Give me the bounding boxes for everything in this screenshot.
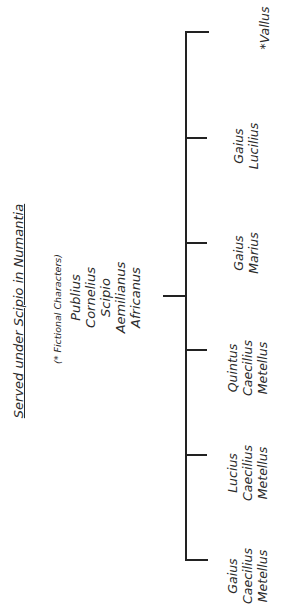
child-6-line-1: Gaius [225, 536, 240, 605]
child-5-line-1: Lucius [225, 433, 240, 513]
branch-2 [185, 137, 207, 139]
child-4-line-3: Metellus [255, 328, 270, 408]
root-connector [163, 295, 187, 297]
child-2-line-2: Lucilius [246, 111, 261, 181]
child-node-gaius-caecilius-metellus: Gaius Caecilius Metellus [225, 536, 271, 605]
child-node-vallus: *Vallus [257, 0, 273, 63]
child-3-line-1: Gaius [231, 218, 246, 288]
child-4-line-1: Quintus [225, 328, 240, 408]
branch-5 [185, 454, 207, 456]
child-5-line-3: Metellus [255, 433, 270, 513]
trunk-line [185, 31, 187, 561]
root-line-5: Africanus [128, 253, 143, 343]
root-node: Publius Cornelius Scipio Aemilianus Afri… [68, 253, 143, 343]
child-2-line-1: Gaius [231, 111, 246, 181]
branch-1 [185, 31, 209, 33]
child-6-line-3: Metellus [255, 536, 270, 605]
diagram-subtitle: (* Fictional Characters) [52, 214, 66, 404]
child-3-line-2: Marius [246, 218, 261, 288]
branch-3 [185, 242, 207, 244]
child-1-line-1: *Vallus [257, 0, 272, 63]
root-line-1: Publius [68, 253, 83, 343]
child-4-line-2: Caecilius [240, 328, 255, 408]
diagram-title: Served under Scipio in Numantia [11, 201, 29, 421]
child-node-gaius-marius: Gaius Marius [231, 218, 263, 288]
child-6-line-2: Caecilius [240, 536, 255, 605]
child-5-line-2: Caecilius [240, 433, 255, 513]
child-node-quintus-caecilius-metellus: Quintus Caecilius Metellus [225, 328, 271, 408]
child-node-gaius-lucilius: Gaius Lucilius [231, 111, 263, 181]
root-line-2: Cornelius [83, 253, 98, 343]
child-node-lucius-caecilius-metellus: Lucius Caecilius Metellus [225, 433, 271, 513]
root-line-3: Scipio [98, 253, 113, 343]
root-line-4: Aemilianus [113, 253, 128, 343]
branch-6 [185, 559, 208, 561]
branch-4 [185, 349, 207, 351]
